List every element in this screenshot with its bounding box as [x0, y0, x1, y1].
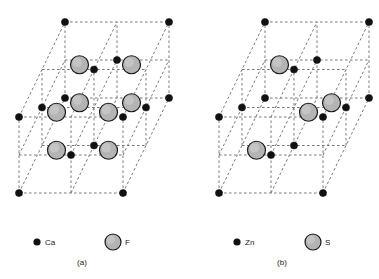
cation-atom — [38, 104, 45, 111]
legend-zn-label: Zn — [245, 238, 254, 247]
legend-f-label: F — [125, 238, 130, 247]
panel-caption-b: (b) — [277, 258, 287, 267]
anion-highlight — [102, 105, 111, 114]
cation-atom — [67, 151, 74, 158]
cation-atom — [165, 94, 172, 101]
anion-highlight — [50, 105, 59, 114]
cation-atom — [319, 113, 326, 120]
cation-atom — [15, 189, 22, 196]
figure-canvas: CaF ZnS (a) (b) — [0, 0, 379, 279]
cation-atom — [119, 113, 126, 120]
cation-atom — [61, 18, 68, 25]
cation-atom — [313, 56, 320, 63]
cation-atom — [365, 18, 372, 25]
legend-f-marker-highlight — [107, 235, 115, 243]
cation-atom — [290, 66, 297, 73]
cation-atom — [267, 151, 274, 158]
cation-atom — [215, 189, 222, 196]
legend-ca-label: Ca — [45, 238, 56, 247]
anion-highlight — [50, 143, 59, 152]
anion-highlight — [73, 96, 82, 105]
anion-highlight — [125, 96, 134, 105]
cation-atom — [90, 66, 97, 73]
cation-atom — [319, 189, 326, 196]
cation-atom — [165, 18, 172, 25]
anion-highlight — [325, 96, 334, 105]
panel-caption-a: (a) — [77, 258, 87, 267]
cation-atom — [113, 56, 120, 63]
anion-highlight — [73, 58, 82, 67]
anion-highlight — [250, 143, 259, 152]
cation-atom — [365, 94, 372, 101]
legend-ca-marker — [33, 238, 40, 245]
cation-atom — [261, 94, 268, 101]
cation-atom — [61, 94, 68, 101]
crystal-structure-figure: CaF ZnS (a) (b) — [0, 0, 379, 279]
cation-atom — [90, 142, 97, 149]
anion-highlight — [302, 105, 311, 114]
legend-s-marker-highlight — [307, 235, 315, 243]
legend-s-label: S — [325, 238, 330, 247]
cation-atom — [290, 142, 297, 149]
cation-atom — [238, 104, 245, 111]
figure-background — [0, 0, 379, 279]
cation-atom — [215, 113, 222, 120]
anion-highlight — [102, 143, 111, 152]
cation-atom — [342, 104, 349, 111]
cation-atom — [261, 18, 268, 25]
cation-atom — [15, 113, 22, 120]
cation-atom — [142, 104, 149, 111]
legend-zn-marker — [233, 238, 240, 245]
cation-atom — [119, 189, 126, 196]
anion-highlight — [125, 58, 134, 67]
anion-highlight — [273, 58, 282, 67]
